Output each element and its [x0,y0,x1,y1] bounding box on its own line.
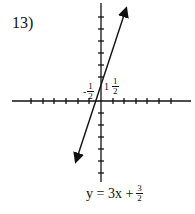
coordinate-graph [0,0,195,214]
sign: - [83,86,86,97]
equation-label: y = 3x + 32 [86,184,143,203]
whole: 1 [104,81,109,92]
x-intercept-label: - 12 [83,82,94,101]
denominator: 2 [88,92,93,101]
y-intercept-label: 1 12 [104,77,119,96]
equation-lhs: y = 3x + [86,186,133,202]
denominator: 2 [137,194,142,203]
denominator: 2 [113,87,118,96]
